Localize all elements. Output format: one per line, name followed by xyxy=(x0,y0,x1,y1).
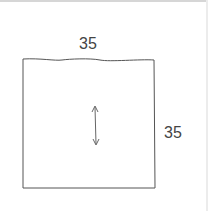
right-edge xyxy=(154,60,155,188)
grainline-arrow-icon xyxy=(92,106,99,145)
height-dimension-label: 35 xyxy=(164,125,182,141)
top-edge xyxy=(23,59,154,61)
pattern-square xyxy=(0,0,208,211)
width-dimension-label: 35 xyxy=(79,36,97,52)
